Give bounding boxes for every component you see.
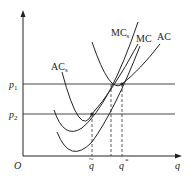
- p1-label: p1: [8, 79, 18, 92]
- origin-label: O: [14, 160, 21, 171]
- q-tilde-mark: ~: [89, 155, 94, 164]
- x-axis-arrow-icon: [175, 154, 182, 159]
- p2-label: p2: [8, 109, 18, 122]
- mc-s-label: MCs: [111, 27, 130, 40]
- x-axis-label: q: [175, 160, 180, 171]
- q-star-label: q: [119, 160, 124, 171]
- long-run-equilibrium-point: [120, 82, 123, 85]
- ac-label: AC: [157, 31, 171, 42]
- q-star-mark: *: [125, 157, 129, 165]
- cost-curves-diagram: MCs MC AC ACs p1 p2 O q q ~ q *: [0, 0, 190, 182]
- ac-s-label: ACs: [51, 61, 68, 74]
- short-run-equilibrium-point: [90, 112, 93, 115]
- mc-s-curve: [54, 22, 138, 131]
- ac-s-curve: [62, 44, 138, 121]
- mc-label: MC: [136, 33, 152, 44]
- y-axis-arrow-icon: [21, 10, 26, 17]
